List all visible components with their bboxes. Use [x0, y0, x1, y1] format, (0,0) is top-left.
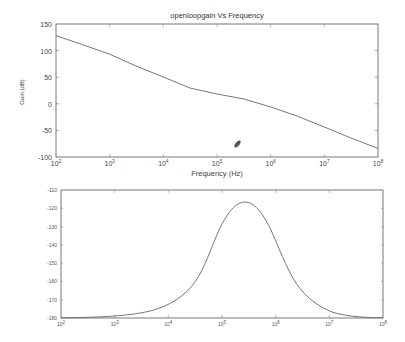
x-tick-label: 107 — [325, 320, 334, 327]
gain-y-axis-label: Gain (dB) — [19, 79, 25, 105]
marker-blob — [233, 139, 241, 148]
x-tick-label: 108 — [379, 320, 388, 327]
x-tick-label: 106 — [266, 159, 277, 167]
phase-plot-axes-box — [61, 190, 383, 318]
gain-x-axis-label: Frequency (Hz) — [191, 169, 243, 178]
x-tick-label: 106 — [272, 320, 281, 327]
gain-x-ticks: 102 103 104 105 106 107 108 — [51, 24, 384, 167]
phase-x-ticks: 102 103 104 105 106 107 108 — [57, 190, 388, 327]
y-tick-label: -160 — [47, 278, 57, 284]
y-tick-label: -130 — [47, 224, 57, 230]
y-tick-label: -170 — [47, 297, 57, 303]
gain-plot-axes-box — [56, 24, 378, 157]
x-tick-label: 104 — [164, 320, 173, 327]
figure: openloopgain Vs Frequency 150 100 50 0 -… — [0, 0, 405, 342]
gain-y-ticks: 150 100 50 0 -50 -100 — [38, 21, 378, 161]
x-tick-label: 108 — [373, 159, 384, 167]
gain-plot: openloopgain Vs Frequency 150 100 50 0 -… — [19, 11, 384, 178]
x-tick-label: 103 — [105, 159, 116, 167]
x-tick-label: 105 — [212, 159, 223, 167]
gain-plot-title: openloopgain Vs Frequency — [170, 11, 264, 20]
y-tick-label: -110 — [47, 187, 57, 193]
y-tick-label: 150 — [40, 21, 52, 28]
y-tick-label: 0 — [48, 101, 52, 108]
y-tick-label: -140 — [47, 242, 57, 248]
x-tick-label: 102 — [57, 320, 66, 327]
y-tick-label: -150 — [47, 260, 57, 266]
phase-curve — [61, 202, 383, 318]
gain-curve — [56, 36, 378, 149]
phase-plot: -110 -120 -130 -140 -150 -160 -170 -180 … — [47, 187, 388, 327]
y-tick-label: -120 — [47, 205, 57, 211]
x-tick-label: 105 — [218, 320, 227, 327]
x-tick-label: 103 — [111, 320, 120, 327]
x-tick-label: 104 — [158, 159, 169, 167]
y-tick-label: -180 — [47, 315, 57, 321]
y-tick-label: 50 — [44, 74, 52, 81]
phase-y-ticks: -110 -120 -130 -140 -150 -160 -170 -180 — [47, 187, 383, 321]
x-tick-label: 102 — [51, 159, 62, 167]
x-tick-label: 107 — [319, 159, 330, 167]
y-tick-label: 100 — [40, 48, 52, 55]
y-tick-label: -50 — [42, 127, 52, 134]
